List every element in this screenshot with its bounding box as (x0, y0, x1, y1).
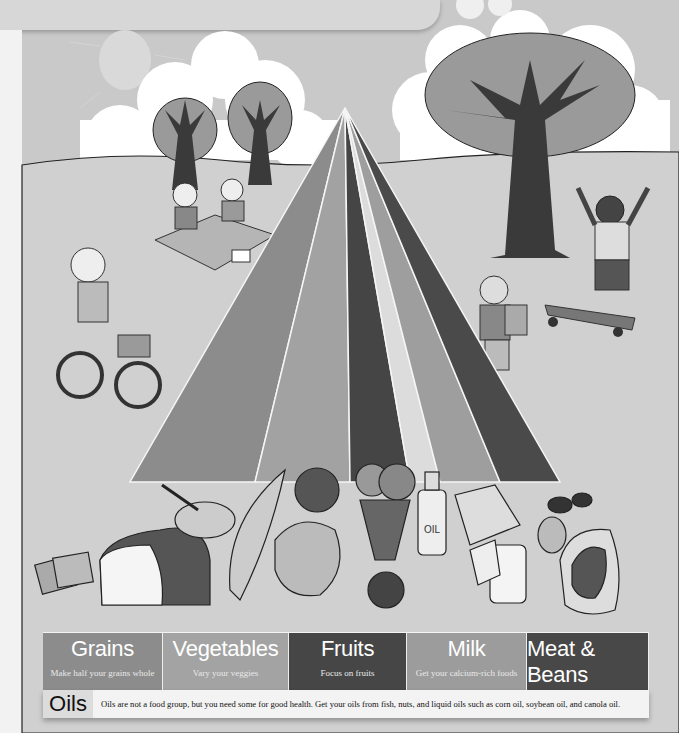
band-subtitle: Get your calcium-rich foods (416, 668, 518, 678)
band-title: Fruits (321, 636, 374, 662)
band-title: Vegetables (173, 636, 279, 662)
band-vegetables: Vegetables Vary your veggies (163, 633, 289, 691)
band-title: Meat & Beans (527, 636, 648, 688)
poster-scene: OIL Grains Make half your grains whole V… (0, 0, 679, 733)
band-subtitle: Vary your veggies (193, 668, 258, 678)
band-milk: Milk Get your calcium-rich foods (407, 633, 527, 691)
band-meat-beans: Meat & Beans Go lean with protein (527, 633, 649, 691)
band-fruits: Fruits Focus on fruits (289, 633, 407, 691)
band-subtitle: Make half your grains whole (51, 668, 155, 678)
band-title: Grains (71, 636, 134, 662)
band-subtitle: Focus on fruits (321, 668, 375, 678)
illustration: OIL (0, 0, 679, 733)
band-grains: Grains Make half your grains whole (43, 633, 163, 691)
band-title: Milk (448, 636, 486, 662)
food-group-bands: Grains Make half your grains whole Veget… (43, 632, 649, 691)
oils-row: Oils Oils are not a food group, but you … (43, 690, 649, 718)
oils-description: Oils are not a food group, but you need … (101, 699, 620, 709)
svg-text:OIL: OIL (424, 524, 441, 535)
oils-label: Oils (43, 690, 93, 718)
